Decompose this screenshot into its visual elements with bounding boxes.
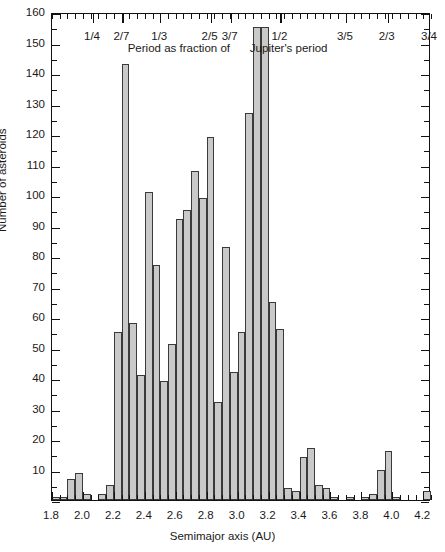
x-tick-major [300, 492, 301, 500]
histogram-bar [276, 329, 284, 500]
y-tick-minor-left [52, 395, 57, 396]
x-tick-top [338, 14, 339, 19]
top-fraction-tick [211, 14, 212, 23]
x-tick-top [400, 14, 401, 19]
x-tick-top [416, 14, 417, 19]
y-tick-minor-right [424, 365, 429, 366]
x-tick-top [83, 14, 84, 19]
x-tick-minor [284, 495, 285, 500]
histogram-bar [145, 192, 153, 500]
y-axis-title: Number of asteroids [0, 32, 8, 232]
y-tick-minor-right [424, 456, 429, 457]
x-tick-top [137, 14, 138, 19]
y-tick-major-right [421, 45, 429, 46]
y-tick-major-left [52, 167, 60, 168]
x-tick-minor [385, 495, 386, 500]
y-tick-major-right [421, 75, 429, 76]
y-tick-major-right [421, 319, 429, 320]
x-tick-minor [183, 495, 184, 500]
y-tick-minor-left [52, 151, 57, 152]
x-tick-major [114, 492, 115, 500]
y-tick-label: 60 [15, 312, 45, 324]
x-tick-minor [323, 495, 324, 500]
histogram-bar [106, 485, 114, 500]
top-fraction-tick [280, 14, 281, 23]
x-tick-top [315, 14, 316, 19]
y-tick-minor-left [52, 212, 57, 213]
y-tick-minor-right [424, 212, 429, 213]
x-tick-top [323, 14, 324, 19]
y-tick-label: 120 [15, 129, 45, 141]
x-tick-minor [377, 495, 378, 500]
plot-area: Period as fraction of Jupiter's period [51, 13, 430, 501]
top-axis-note-right: Jupiter's period [250, 42, 328, 54]
x-tick-top [377, 14, 378, 19]
y-tick-label: 10 [15, 465, 45, 477]
x-tick-major [423, 492, 424, 500]
top-axis-note-left: Period as fraction of [128, 42, 230, 54]
x-tick-top [106, 14, 107, 19]
y-tick-label: 20 [15, 434, 45, 446]
x-tick-top [183, 14, 184, 19]
x-tick-minor [153, 495, 154, 500]
x-tick-top [269, 14, 270, 19]
y-tick-minor-right [424, 60, 429, 61]
x-tick-top [191, 14, 192, 19]
x-tick-minor [408, 495, 409, 500]
y-tick-minor-right [424, 151, 429, 152]
top-fraction-label: 2/3 [367, 31, 407, 43]
x-tick-minor [222, 495, 223, 500]
y-tick-minor-left [52, 60, 57, 61]
histogram-bar [323, 488, 331, 500]
x-tick-top [261, 14, 262, 19]
x-tick-minor [122, 495, 123, 500]
x-tick-label: 4.2 [402, 510, 442, 522]
x-tick-minor [315, 495, 316, 500]
x-tick-top [214, 14, 215, 19]
top-fraction-tick [93, 14, 94, 23]
histogram-bar [361, 497, 369, 500]
histogram-bar [83, 494, 91, 500]
histogram-bar [60, 497, 68, 500]
y-tick-major-right [421, 472, 429, 473]
y-tick-major-right [421, 289, 429, 290]
top-fraction-label: 2/7 [101, 31, 141, 43]
x-tick-top [129, 14, 130, 19]
y-tick-minor-left [52, 487, 57, 488]
y-tick-label: 100 [15, 190, 45, 202]
x-tick-top [98, 14, 99, 19]
histogram-bar [253, 27, 261, 500]
x-tick-top [75, 14, 76, 19]
x-tick-minor [91, 495, 92, 500]
histogram-bar [369, 494, 377, 500]
y-tick-minor-left [52, 365, 57, 366]
y-tick-major-left [52, 228, 60, 229]
x-tick-minor [168, 495, 169, 500]
x-tick-minor [307, 495, 308, 500]
y-tick-minor-right [424, 304, 429, 305]
histogram-bar [67, 479, 75, 500]
y-tick-major-right [421, 502, 429, 503]
y-tick-label: 160 [15, 7, 45, 19]
x-tick-top [354, 14, 355, 19]
x-tick-minor [338, 495, 339, 500]
histogram-bar [330, 497, 338, 500]
histogram-bar [392, 497, 400, 500]
y-tick-label: 70 [15, 282, 45, 294]
x-tick-minor [67, 495, 68, 500]
x-tick-minor [106, 495, 107, 500]
x-tick-top [300, 14, 301, 19]
y-tick-major-left [52, 14, 60, 15]
histogram-bars [52, 14, 429, 500]
y-tick-label: 30 [15, 404, 45, 416]
y-tick-label: 50 [15, 343, 45, 355]
y-tick-minor-left [52, 456, 57, 457]
y-tick-minor-left [52, 29, 57, 30]
y-tick-label: 150 [15, 38, 45, 50]
histogram-bar [214, 402, 222, 500]
histogram-bar [238, 332, 246, 500]
x-tick-top [361, 14, 362, 19]
x-tick-major [207, 492, 208, 500]
top-fraction-label: 1/3 [139, 31, 179, 43]
x-tick-top [253, 14, 254, 19]
